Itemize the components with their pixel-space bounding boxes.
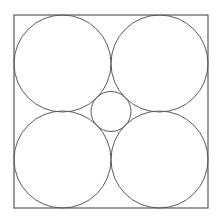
center-circle	[91, 92, 131, 132]
circles-in-square-diagram	[0, 0, 218, 217]
outer-square	[14, 15, 208, 208]
